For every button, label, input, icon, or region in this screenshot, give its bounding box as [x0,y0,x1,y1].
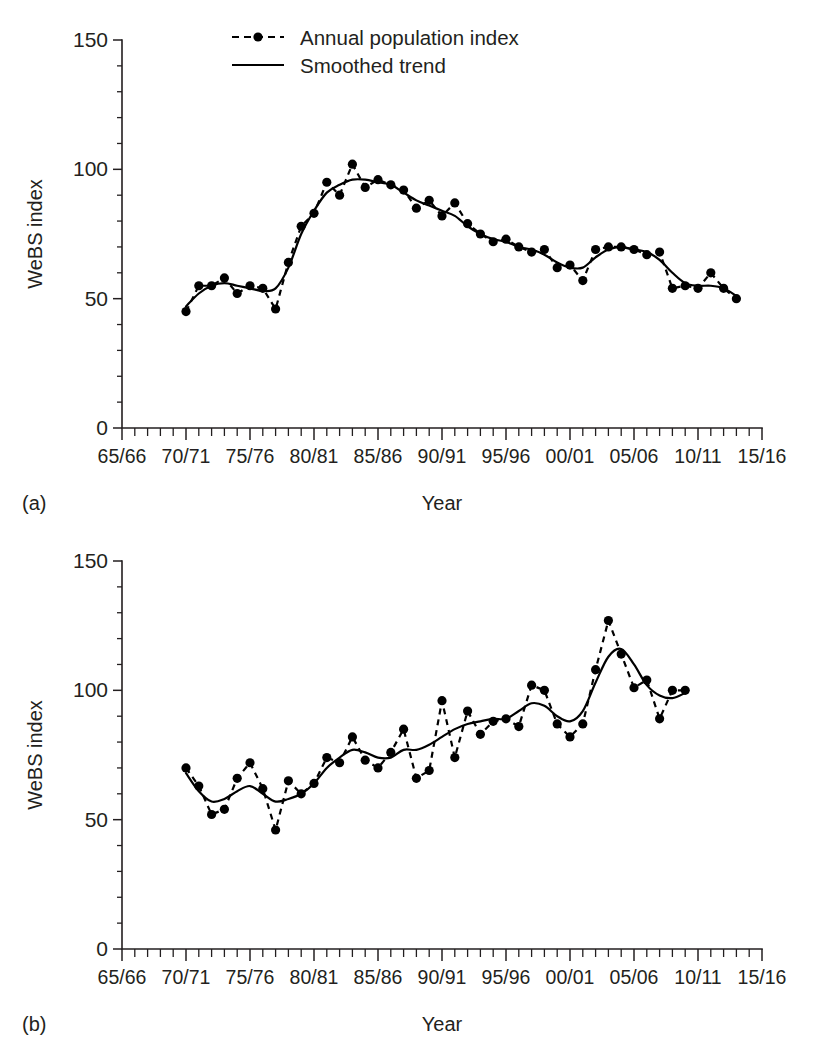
series-group [181,160,741,317]
data-point-marker [297,222,306,231]
x-tick-label: 05/06 [610,445,659,467]
data-point-marker [450,198,459,207]
y-tick-label: 100 [73,157,108,180]
panel-a: 05010015065/6670/7175/7680/8185/8690/919… [0,0,820,521]
x-axis-title: Year [422,492,463,514]
data-point-marker [181,307,190,316]
data-point-marker [617,650,626,659]
data-point-marker [617,242,626,251]
data-point-marker [233,774,242,783]
data-point-marker [322,178,331,187]
data-point-marker [681,281,690,290]
data-point-marker [322,753,331,762]
x-tick-label: 90/91 [418,966,467,988]
data-point-marker [245,281,254,290]
series-smoothed-trend [186,649,685,802]
legend-label-annual-population-index: Annual population index [300,26,520,49]
data-point-marker [386,180,395,189]
data-point-marker [194,281,203,290]
data-point-marker [565,260,574,269]
data-point-marker [681,686,690,695]
data-point-marker [207,281,216,290]
y-tick-label: 0 [96,416,108,439]
x-tick-label: 95/96 [482,445,531,467]
x-tick-label: 70/71 [162,966,211,988]
x-tick-label: 85/86 [354,966,403,988]
x-tick-label: 00/01 [546,966,595,988]
y-tick-label: 0 [96,937,108,960]
series-group [181,616,689,835]
axes-group: 05010015065/6670/7175/7680/8185/8690/919… [73,28,786,467]
x-tick-label: 65/66 [98,966,147,988]
data-point-marker [476,229,485,238]
data-point-marker [553,719,562,728]
x-tick-label: 90/91 [418,445,467,467]
data-point-marker [271,825,280,834]
axis-lines [122,561,762,949]
data-point-marker [258,284,267,293]
legend-label-smoothed-trend: Smoothed trend [300,54,446,77]
y-tick-label: 50 [85,287,108,310]
data-point-marker [514,242,523,251]
data-point-marker [220,273,229,282]
x-tick-label: 10/11 [674,966,721,988]
data-point-marker [642,675,651,684]
data-point-marker [463,219,472,228]
x-tick-label: 15/16 [738,966,787,988]
data-point-marker [271,304,280,313]
data-point-marker [399,725,408,734]
series-annual-population-index [186,620,685,830]
data-point-marker [578,276,587,285]
data-point-marker [489,717,498,726]
data-point-marker [437,696,446,705]
data-point-marker [668,686,677,695]
data-point-marker [207,810,216,819]
x-tick-label: 80/81 [290,966,339,988]
data-point-marker [591,665,600,674]
data-point-marker [527,248,536,257]
x-tick-label: 85/86 [354,445,403,467]
data-point-marker [335,758,344,767]
data-point-marker [284,776,293,785]
chart-a-svg: 05010015065/6670/7175/7680/8185/8690/919… [0,0,820,521]
data-point-marker [463,706,472,715]
data-point-marker [655,714,664,723]
data-point-marker [412,204,421,213]
data-point-marker [386,748,395,757]
legend-marker-icon [253,32,262,41]
data-point-marker [591,245,600,254]
data-point-marker [604,242,613,251]
data-point-marker [501,714,510,723]
data-point-marker [220,805,229,814]
data-point-marker [501,235,510,244]
data-point-marker [412,774,421,783]
panel-letter: (a) [22,492,46,514]
y-tick-label: 150 [73,549,108,572]
y-tick-label: 100 [73,678,108,701]
x-axis-title: Year [422,1013,463,1035]
data-point-marker [373,175,382,184]
series-smoothed-trend [186,179,736,306]
data-point-marker [642,250,651,259]
data-point-marker [706,268,715,277]
data-point-marker [233,289,242,298]
y-axis-title: WeBS index [24,700,46,810]
data-point-marker [540,686,549,695]
data-point-marker [437,211,446,220]
x-tick-label: 75/76 [226,445,275,467]
data-point-marker [361,183,370,192]
data-point-marker [373,763,382,772]
data-point-marker [668,284,677,293]
data-point-marker [309,779,318,788]
data-point-marker [348,160,357,169]
legend: Annual population indexSmoothed trend [232,26,520,77]
panel-b: 05010015065/6670/7175/7680/8185/8690/919… [0,521,820,1042]
data-point-marker [361,756,370,765]
data-point-marker [565,732,574,741]
data-point-marker [181,763,190,772]
data-point-marker [693,284,702,293]
data-point-marker [335,191,344,200]
data-point-marker [540,245,549,254]
chart-b-svg: 05010015065/6670/7175/7680/8185/8690/919… [0,521,820,1042]
data-point-marker [399,185,408,194]
